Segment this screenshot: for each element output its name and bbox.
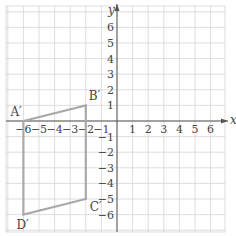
- vertex-label: B′: [89, 89, 101, 103]
- vertex-label: C′: [90, 200, 102, 214]
- x-tick-label: 4: [176, 123, 183, 136]
- y-tick-label: 6: [107, 21, 114, 34]
- x-tick-label: −5: [31, 123, 47, 136]
- x-axis-label: x: [230, 113, 236, 127]
- y-tick-label: 1: [107, 99, 114, 112]
- x-tick-label: 5: [192, 123, 199, 136]
- x-tick-label: 6: [207, 123, 214, 136]
- y-tick-label: −3: [98, 162, 114, 175]
- coordinate-plane: −6−5−4−3−2−1123456654321−1−2−3−4−5−6 A′B…: [0, 0, 236, 236]
- y-tick-label: 5: [107, 37, 114, 50]
- tick-labels: −6−5−4−3−2−1123456654321−1−2−3−4−5−6: [15, 21, 214, 221]
- x-tick-label: −4: [46, 123, 62, 136]
- x-tick-label: 2: [145, 123, 152, 136]
- y-tick-label: 3: [107, 68, 114, 81]
- vertex-label: D′: [16, 218, 29, 232]
- x-tick-label: −3: [62, 123, 78, 136]
- x-axis-arrow-icon: [221, 119, 228, 124]
- x-tick-label: 1: [129, 123, 136, 136]
- y-tick-label: −2: [98, 146, 114, 159]
- grid-lines: [6, 6, 225, 232]
- y-tick-label: 4: [107, 53, 114, 66]
- y-axis-arrow-icon: [115, 4, 120, 11]
- vertex-label: A′: [9, 105, 22, 119]
- y-tick-label: 2: [107, 84, 114, 97]
- y-tick-label: −1: [98, 131, 114, 144]
- y-axis-label: y: [107, 3, 115, 17]
- y-tick-label: −4: [98, 177, 114, 190]
- x-tick-label: 3: [160, 123, 167, 136]
